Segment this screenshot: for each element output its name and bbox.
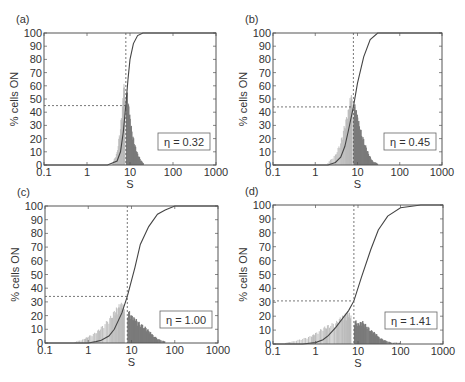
panel-label: (d) [245, 185, 258, 197]
y-tick-label: 20 [30, 133, 42, 145]
eta-annotation: η = 0.45 [390, 136, 430, 148]
y-tick-label: 100 [253, 199, 271, 211]
histogram-on [126, 93, 144, 165]
x-tick-label: 0.1 [37, 344, 52, 356]
x-axis-label: S [128, 356, 135, 368]
y-tick-label: 70 [30, 67, 42, 79]
eta-annotation: η = 0.32 [164, 136, 204, 148]
y-tick-label: 70 [259, 67, 271, 79]
histogram-on [353, 104, 378, 165]
x-tick-label: 0.1 [36, 166, 51, 178]
y-tick-label: 60 [259, 255, 271, 267]
y-tick-label: 40 [259, 106, 271, 118]
y-tick-label: 80 [259, 227, 271, 239]
panel-d: (d)01020304050607080901000.11101001000S%… [237, 185, 455, 369]
y-tick-label: 100 [253, 27, 271, 39]
y-tick-label: 30 [259, 119, 271, 131]
y-tick-label: 10 [31, 323, 43, 335]
x-tick-label: 0.1 [265, 345, 280, 357]
x-tick-label: 1 [85, 344, 91, 356]
y-tick-label: 90 [31, 214, 43, 226]
x-axis-label: S [126, 178, 133, 190]
panel-label: (a) [16, 13, 29, 25]
y-tick-label: 70 [31, 241, 43, 253]
panel-c: (c)01020304050607080901000.11101001000S%… [9, 186, 230, 368]
y-tick-label: 50 [259, 93, 271, 105]
y-tick-label: 80 [259, 53, 271, 65]
x-tick-label: 100 [166, 344, 184, 356]
y-tick-label: 90 [30, 40, 42, 52]
y-tick-label: 30 [30, 119, 42, 131]
y-tick-label: 50 [259, 269, 271, 281]
y-tick-label: 60 [259, 80, 271, 92]
y-tick-label: 80 [30, 53, 42, 65]
y-axis-label: % cells ON [9, 247, 21, 301]
histogram-on [127, 311, 165, 343]
x-tick-label: 1 [312, 166, 318, 178]
y-tick-label: 60 [30, 80, 42, 92]
x-tick-label: 100 [164, 166, 182, 178]
y-tick-label: 100 [25, 200, 43, 212]
y-tick-label: 60 [31, 255, 43, 267]
x-tick-label: 10 [124, 166, 136, 178]
y-tick-label: 90 [259, 40, 271, 52]
panel-label: (c) [17, 186, 30, 198]
eta-annotation: η = 1.00 [166, 314, 206, 326]
panel-label: (b) [245, 13, 258, 25]
x-tick-label: 100 [391, 345, 409, 357]
y-tick-label: 40 [259, 282, 271, 294]
y-axis-label: % cells ON [237, 247, 249, 301]
x-tick-label: 0.1 [265, 166, 280, 178]
x-tick-label: 1000 [206, 344, 230, 356]
x-axis-label: S [354, 178, 361, 190]
y-tick-label: 100 [24, 27, 42, 39]
y-tick-label: 80 [31, 227, 43, 239]
x-axis-label: S [354, 357, 361, 369]
histogram-off [113, 84, 125, 165]
x-tick-label: 10 [352, 345, 364, 357]
x-tick-label: 1 [84, 166, 90, 178]
histogram-off [286, 312, 351, 344]
x-tick-label: 1000 [204, 166, 228, 178]
y-axis-label: % cells ON [237, 72, 249, 126]
x-tick-label: 1000 [430, 166, 454, 178]
y-tick-label: 40 [30, 106, 42, 118]
x-tick-label: 10 [351, 166, 363, 178]
y-tick-label: 30 [259, 296, 271, 308]
y-tick-label: 20 [31, 310, 43, 322]
y-tick-label: 50 [30, 93, 42, 105]
y-axis-label: % cells ON [8, 72, 20, 126]
y-tick-label: 90 [259, 213, 271, 225]
y-tick-label: 70 [259, 241, 271, 253]
eta-annotation: η = 1.41 [391, 315, 431, 327]
x-tick-label: 10 [125, 344, 137, 356]
x-tick-label: 1000 [431, 345, 455, 357]
y-tick-label: 10 [259, 146, 271, 158]
y-tick-label: 30 [31, 296, 43, 308]
panel-b: (b)01020304050607080901000.11101001000S%… [237, 13, 454, 190]
x-tick-label: 100 [391, 166, 409, 178]
y-tick-label: 20 [259, 310, 271, 322]
figure-canvas: (a)01020304050607080901000.11101001000S%… [0, 0, 465, 382]
y-tick-label: 40 [31, 282, 43, 294]
y-tick-label: 50 [31, 269, 43, 281]
x-tick-label: 1 [312, 345, 318, 357]
y-tick-label: 20 [259, 133, 271, 145]
y-tick-label: 10 [30, 146, 42, 158]
y-tick-label: 10 [259, 324, 271, 336]
panel-a: (a)01020304050607080901000.11101001000S%… [8, 13, 228, 190]
